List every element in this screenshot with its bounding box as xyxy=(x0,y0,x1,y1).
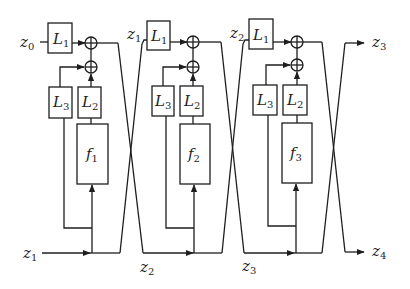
stage-3-add-bottom-icon xyxy=(291,59,303,71)
coupling-network-diagram: L1 L3 L2 f1 xyxy=(0,0,410,289)
stage-3: L1 L3 L2 f3 xyxy=(249,19,322,253)
label-z2-bottom: z2 xyxy=(139,258,154,277)
input-label-z0: z0 xyxy=(19,33,34,52)
stage-2-L3-to-add xyxy=(163,67,186,86)
stage-1-L3-to-add xyxy=(60,67,84,87)
crossover-3 xyxy=(322,42,364,253)
input-label-z1: z1 xyxy=(22,244,37,263)
stage-2-add-top-icon xyxy=(187,36,199,48)
label-z2-top: z2 xyxy=(229,24,244,43)
stage-1-add-bottom-icon xyxy=(85,61,97,73)
output-label-z3: z3 xyxy=(371,33,386,52)
label-z3-bottom: z3 xyxy=(241,257,256,276)
stage-3-add-top-icon xyxy=(291,36,303,48)
stage-1: L1 L3 L2 f1 xyxy=(40,23,120,253)
stage-1-add-top-icon xyxy=(85,37,97,49)
stage-3-L3-to-add xyxy=(266,65,290,85)
label-z1-top: z1 xyxy=(126,25,141,44)
stage-2-add-bottom-icon xyxy=(187,61,199,73)
output-label-z4: z4 xyxy=(371,242,386,261)
stage-2: L1 L3 L2 f2 xyxy=(147,21,222,253)
